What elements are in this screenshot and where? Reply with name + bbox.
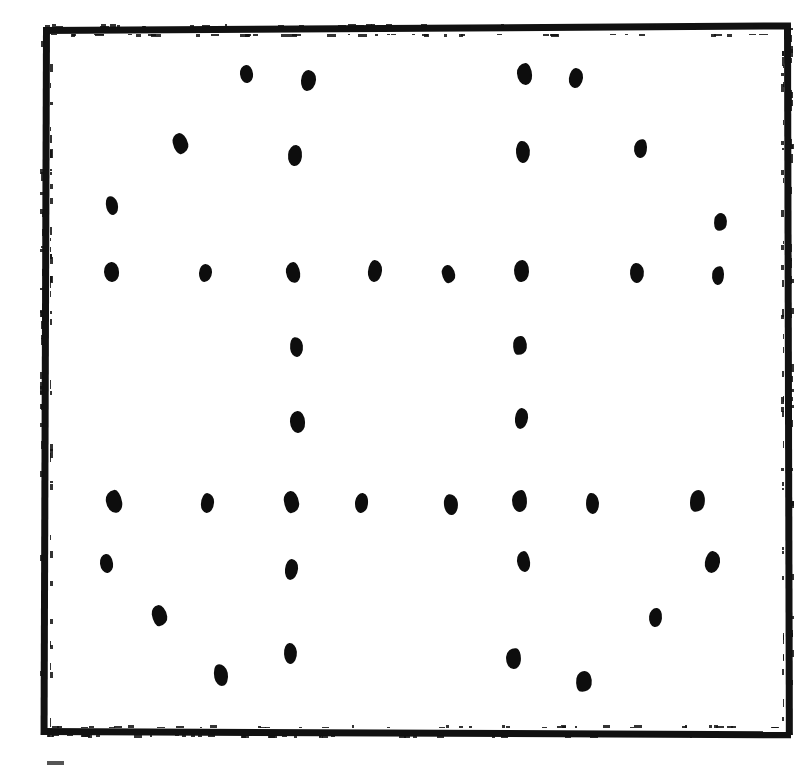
- frame-grain-fleck: [543, 34, 549, 37]
- frame-grain-fleck: [782, 371, 785, 377]
- frame-grain-fleck: [577, 735, 579, 737]
- frame-grain-fleck: [348, 24, 356, 28]
- frame-grain-fleck: [634, 725, 642, 728]
- frame-grain-fleck: [51, 34, 58, 35]
- frame-grain-fleck: [40, 382, 43, 389]
- frame-grain-fleck: [782, 148, 785, 151]
- frame-grain-fleck: [50, 718, 52, 727]
- frame-grain-fleck: [791, 420, 794, 428]
- frame-grain-fleck: [202, 25, 210, 28]
- frame-grain-fleck: [40, 391, 43, 394]
- frame-grain-fleck: [117, 25, 120, 27]
- frame-grain-fleck: [50, 391, 53, 396]
- frame-grain-fleck: [196, 34, 200, 37]
- frame-grain-fleck: [200, 727, 202, 729]
- frame-grain-fleck: [210, 725, 217, 728]
- frame-grain-fleck: [42, 678, 44, 682]
- frame-grain-fleck: [52, 735, 60, 737]
- frame-grain-fleck: [782, 482, 784, 486]
- frame-grain-fleck: [322, 727, 329, 728]
- frame-grain-fleck: [41, 41, 44, 47]
- frame-grain-fleck: [110, 24, 116, 28]
- frame-grain-fleck: [625, 34, 629, 35]
- frame-grain-fleck: [387, 34, 390, 36]
- frame-grain-fleck: [50, 484, 54, 490]
- frame-grain-fleck: [782, 576, 785, 580]
- frame-grain-fleck: [81, 727, 88, 728]
- frame-grain-fleck: [791, 732, 792, 734]
- frame-grain-fleck: [562, 726, 565, 729]
- frame-grain-fleck: [412, 34, 415, 36]
- figure-description: A thick hand-inked rectangular border co…: [0, 16, 1, 17]
- frame-grain-fleck: [782, 488, 785, 490]
- frame-grain-fleck: [791, 711, 792, 718]
- frame-grain-fleck: [72, 34, 76, 36]
- frame-grain-fleck: [175, 735, 179, 736]
- frame-grain-fleck: [50, 641, 52, 647]
- frame-grain-fleck: [649, 24, 652, 28]
- frame-grain-fleck: [783, 699, 784, 707]
- frame-grain-fleck: [783, 633, 784, 639]
- frame-grain-fleck: [42, 269, 44, 275]
- frame-grain-fleck: [198, 735, 201, 738]
- frame-grain-fleck: [783, 441, 784, 447]
- frame-grain-fleck: [128, 34, 132, 35]
- frame-grain-fleck: [50, 184, 54, 189]
- frame-grain-fleck: [299, 727, 302, 729]
- frame-grain-fleck: [128, 725, 133, 728]
- frame-grain-fleck: [40, 555, 43, 560]
- frame-grain-fleck: [327, 34, 336, 38]
- frame-grain-fleck: [211, 34, 220, 37]
- frame-grain-fleck: [791, 35, 792, 42]
- caption-clipped-glyph: [47, 761, 64, 765]
- frame-grain-fleck: [759, 34, 768, 35]
- frame-grain-fleck: [150, 735, 152, 737]
- frame-grain-fleck: [50, 291, 51, 297]
- frame-grain-fleck: [781, 210, 785, 217]
- frame-grain-fleck: [437, 735, 444, 738]
- frame-grain-fleck: [439, 727, 445, 728]
- frame-grain-fleck: [50, 198, 54, 204]
- frame-grain-fleck: [791, 90, 792, 98]
- figure-page: Hand-drawn square frame enclosing a fiel…: [0, 0, 809, 768]
- frame-grain-fleck: [461, 34, 465, 37]
- frame-grain-fleck: [690, 735, 693, 739]
- frame-grain-fleck: [50, 172, 52, 175]
- frame-grain-fleck: [497, 34, 502, 35]
- frame-grain-fleck: [89, 726, 93, 728]
- frame-grain-fleck: [791, 364, 795, 372]
- frame-grain-fleck: [772, 735, 778, 737]
- frame-grain-fleck: [422, 34, 428, 36]
- frame-grain-fleck: [603, 725, 610, 729]
- frame-grain-fleck: [791, 49, 793, 57]
- frame-grain-fleck: [501, 735, 508, 739]
- frame-grain-fleck: [421, 24, 426, 27]
- frame-grain-fleck: [371, 24, 375, 28]
- frame-grain-fleck: [82, 735, 89, 738]
- frame-grain-fleck: [653, 24, 657, 27]
- frame-grain-fleck: [56, 26, 64, 28]
- frame-grain-fleck: [782, 551, 784, 553]
- frame-grain-fleck: [781, 245, 785, 250]
- frame-grain-fleck: [469, 726, 472, 729]
- frame-grain-fleck: [575, 726, 577, 729]
- frame-grain-fleck: [791, 723, 792, 726]
- frame-grain-fleck: [400, 26, 402, 28]
- frame-grain-fleck: [265, 727, 269, 729]
- frame-grain-fleck: [782, 547, 785, 550]
- frame-grain-fleck: [444, 34, 447, 37]
- frame-grain-fleck: [42, 508, 44, 516]
- frame-grain-fleck: [791, 187, 793, 193]
- frame-grain-fleck: [657, 26, 664, 27]
- frame-grain-fleck: [258, 726, 261, 729]
- frame-grain-fleck: [733, 735, 739, 736]
- frame-grain-fleck: [647, 735, 655, 736]
- frame-grain-fleck: [781, 397, 784, 403]
- frame-grain-fleck: [50, 247, 52, 252]
- frame-grain-fleck: [42, 357, 44, 364]
- frame-grain-fleck: [45, 25, 50, 28]
- frame-grain-fleck: [590, 735, 598, 738]
- frame-grain-fleck: [413, 735, 417, 738]
- frame-grain-fleck: [50, 581, 53, 585]
- frame-grain-fleck: [50, 227, 53, 234]
